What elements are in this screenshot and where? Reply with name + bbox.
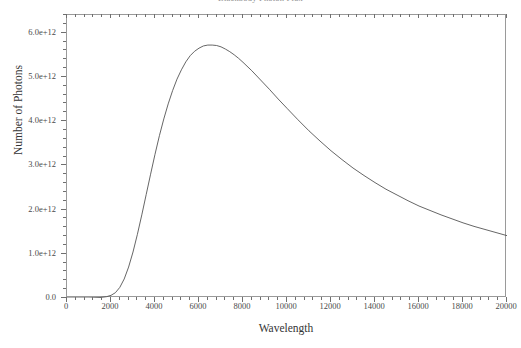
x-axis-minor-tick: [216, 297, 217, 300]
x-axis-minor-tick: [339, 297, 340, 300]
y-axis-tick: [61, 164, 66, 165]
x-axis-minor-tick-top: [119, 14, 120, 17]
y-axis-minor-tick: [63, 262, 66, 263]
x-axis-minor-tick-top: [488, 14, 489, 17]
x-axis-minor-tick: [145, 297, 146, 300]
x-axis-tick-top: [154, 14, 155, 18]
chart-title: Blackbody Photon Flux: [0, 0, 521, 3]
x-axis-minor-tick: [453, 297, 454, 300]
y-axis-tick-label: 4.0e+12: [0, 115, 56, 125]
x-axis-minor-tick-top: [128, 14, 129, 17]
x-axis-minor-tick-top: [224, 14, 225, 17]
x-axis-minor-tick-top: [268, 14, 269, 17]
x-axis-minor-tick-top: [304, 14, 305, 17]
x-axis-tick-label: 14000: [363, 301, 384, 311]
x-axis-minor-tick-top: [453, 14, 454, 17]
y-axis-minor-tick: [63, 138, 66, 139]
y-axis-tick: [61, 209, 66, 210]
y-axis-minor-tick: [63, 244, 66, 245]
y-axis-minor-tick: [63, 129, 66, 130]
x-axis-minor-tick-top: [92, 14, 93, 17]
x-axis-tick-top: [330, 14, 331, 18]
x-axis-tick-label: 4000: [146, 301, 163, 311]
x-axis-minor-tick-top: [348, 14, 349, 17]
x-axis-minor-tick-top: [497, 14, 498, 17]
x-axis-minor-tick: [251, 297, 252, 300]
y-axis-tick-label: 5.0e+12: [0, 71, 56, 81]
x-axis-minor-tick: [75, 297, 76, 300]
x-axis-minor-tick: [180, 297, 181, 300]
x-axis-minor-tick-top: [101, 14, 102, 17]
x-axis-minor-tick-top: [444, 14, 445, 17]
x-axis-tick-top: [506, 14, 507, 18]
x-axis-tick-top: [286, 14, 287, 18]
x-axis-title: Wavelength: [66, 322, 506, 334]
x-axis-minor-tick: [189, 297, 190, 300]
y-axis-minor-tick: [63, 217, 66, 218]
y-axis-minor-tick: [63, 85, 66, 86]
y-axis-tick: [61, 32, 66, 33]
x-axis-minor-tick-top: [145, 14, 146, 17]
x-axis-minor-tick: [409, 297, 410, 300]
x-axis-minor-tick-top: [480, 14, 481, 17]
x-axis-minor-tick: [295, 297, 296, 300]
photon-distribution-curve: [67, 15, 507, 298]
y-axis-minor-tick: [63, 102, 66, 103]
y-axis-minor-tick: [63, 226, 66, 227]
x-axis-minor-tick: [277, 297, 278, 300]
y-axis-minor-tick: [63, 279, 66, 280]
plot-area: [67, 15, 505, 296]
x-axis-tick-top: [242, 14, 243, 18]
x-axis-tick-label: 0: [64, 301, 68, 311]
x-axis-tick-top: [198, 14, 199, 18]
x-axis-minor-tick-top: [251, 14, 252, 17]
x-axis-tick-label: 18000: [451, 301, 472, 311]
x-axis-minor-tick: [392, 297, 393, 300]
y-axis-tick-label: 3.0e+12: [0, 159, 56, 169]
y-axis-minor-tick: [63, 49, 66, 50]
x-axis-minor-tick: [488, 297, 489, 300]
x-axis-minor-tick-top: [75, 14, 76, 17]
x-axis-minor-tick-top: [136, 14, 137, 17]
y-axis-tick-label: 1.0e+12: [0, 248, 56, 258]
x-axis-tick-label: 10000: [275, 301, 296, 311]
x-axis-minor-tick: [436, 297, 437, 300]
x-axis-minor-tick: [128, 297, 129, 300]
x-axis-minor-tick-top: [172, 14, 173, 17]
x-axis-minor-tick: [304, 297, 305, 300]
y-axis-minor-tick: [63, 235, 66, 236]
y-axis-title: Number of Photons: [12, 20, 24, 200]
x-axis-minor-tick: [444, 297, 445, 300]
x-axis-minor-tick-top: [471, 14, 472, 17]
x-axis-minor-tick: [84, 297, 85, 300]
x-axis-minor-tick: [321, 297, 322, 300]
x-axis-tick-label: 8000: [234, 301, 251, 311]
x-axis-minor-tick-top: [260, 14, 261, 17]
x-axis-minor-tick-top: [392, 14, 393, 17]
x-axis-minor-tick-top: [163, 14, 164, 17]
x-axis-minor-tick-top: [277, 14, 278, 17]
x-axis-minor-tick: [365, 297, 366, 300]
x-axis-minor-tick-top: [84, 14, 85, 17]
y-axis-minor-tick: [63, 288, 66, 289]
x-axis-tick-label: 2000: [102, 301, 119, 311]
y-axis-minor-tick: [63, 41, 66, 42]
x-axis-minor-tick-top: [312, 14, 313, 17]
series-line: [67, 45, 507, 298]
y-axis-tick-label: 0.0: [0, 292, 56, 302]
x-axis-minor-tick-top: [400, 14, 401, 17]
x-axis-minor-tick-top: [365, 14, 366, 17]
x-axis-minor-tick-top: [427, 14, 428, 17]
x-axis-tick-top: [462, 14, 463, 18]
x-axis-minor-tick-top: [180, 14, 181, 17]
y-axis-minor-tick: [63, 173, 66, 174]
y-axis-minor-tick: [63, 58, 66, 59]
x-axis-minor-tick-top: [295, 14, 296, 17]
x-axis-minor-tick: [224, 297, 225, 300]
x-axis-tick-top: [418, 14, 419, 18]
x-axis-minor-tick: [497, 297, 498, 300]
y-axis-minor-tick: [63, 67, 66, 68]
y-axis-minor-tick: [63, 270, 66, 271]
x-axis-minor-tick: [356, 297, 357, 300]
x-axis-minor-tick-top: [207, 14, 208, 17]
